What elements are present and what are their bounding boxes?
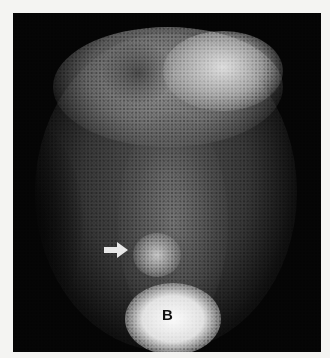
arrow-right-icon <box>104 242 128 258</box>
bladder-label: B <box>162 306 173 323</box>
scan-image: B <box>13 13 321 352</box>
scan-noise-texture <box>13 13 321 352</box>
